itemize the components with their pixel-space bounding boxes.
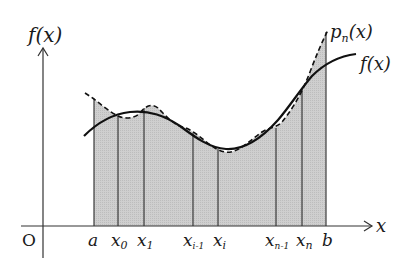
- tick-label-a: a: [88, 230, 98, 250]
- tick-label-b: b: [322, 230, 333, 250]
- x-axis-label: x: [376, 215, 386, 236]
- tick-label-xi: xi: [213, 230, 226, 252]
- tick-label-x0: x0: [111, 230, 128, 252]
- tick-labels: a x0 x1 xi-1 xi xn-1 xn b: [88, 230, 333, 252]
- polynomial-label: pn(x): [330, 21, 373, 45]
- tick-label-xi-1: xi-1: [183, 230, 204, 251]
- tick-label-xn-1: xn-1: [265, 230, 289, 251]
- polynomial-label-main: p: [330, 21, 342, 42]
- shaded-area: [94, 32, 326, 226]
- tick-label-x1: x1: [137, 230, 154, 252]
- integration-diagram: f(x) pn(x) f(x) x O a x0 x1 xi-1 xi xn-1…: [0, 0, 418, 266]
- polynomial-label-arg: (x): [349, 21, 373, 42]
- function-label: f(x): [358, 53, 391, 74]
- y-axis-label: f(x): [26, 23, 62, 47]
- polynomial-label-sub: n: [342, 32, 349, 45]
- tick-label-xn: xn: [296, 230, 313, 252]
- origin-label: O: [22, 230, 36, 250]
